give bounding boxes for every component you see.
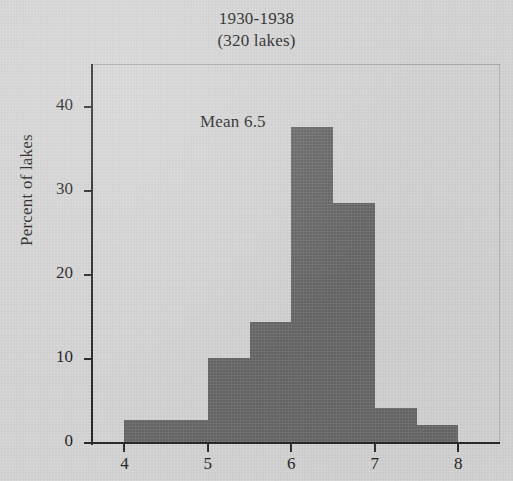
histogram-bar xyxy=(291,127,333,442)
y-tick-label: 10 xyxy=(56,347,73,367)
x-tick-label: 4 xyxy=(120,454,129,474)
plot-area: 010203040 45678 xyxy=(91,64,500,444)
x-tick-label: 6 xyxy=(287,454,296,474)
x-tick xyxy=(290,443,292,452)
histogram-bar xyxy=(124,420,207,442)
chart-title-block: 1930-1938 (320 lakes) xyxy=(0,8,513,52)
chart-title: 1930-1938 xyxy=(0,8,513,30)
y-tick-label: 30 xyxy=(56,179,73,199)
x-tick-label: 5 xyxy=(204,454,213,474)
histogram-figure: 1930-1938 (320 lakes) Percent of lakes 0… xyxy=(0,0,513,481)
chart-subtitle: (320 lakes) xyxy=(0,30,513,52)
histogram-bar xyxy=(375,408,417,442)
x-tick xyxy=(457,443,459,452)
histogram-bars xyxy=(91,64,500,442)
x-tick-label: 8 xyxy=(454,454,463,474)
y-tick-label: 40 xyxy=(56,95,73,115)
histogram-bar xyxy=(417,425,459,442)
y-tick: 0 xyxy=(84,442,92,444)
x-tick xyxy=(374,443,376,452)
x-tick xyxy=(207,443,209,452)
histogram-bar xyxy=(208,358,250,442)
histogram-bar xyxy=(333,203,375,442)
y-axis-title: Percent of lakes xyxy=(14,0,40,380)
x-tick xyxy=(123,443,125,452)
histogram-bar xyxy=(250,322,292,442)
y-tick-label: 0 xyxy=(65,431,74,451)
y-tick-label: 20 xyxy=(56,263,73,283)
mean-annotation: Mean 6.5 xyxy=(200,112,266,132)
x-axis-line xyxy=(91,442,500,444)
x-tick-label: 7 xyxy=(371,454,380,474)
y-axis-title-text: Percent of lakes xyxy=(17,134,37,246)
